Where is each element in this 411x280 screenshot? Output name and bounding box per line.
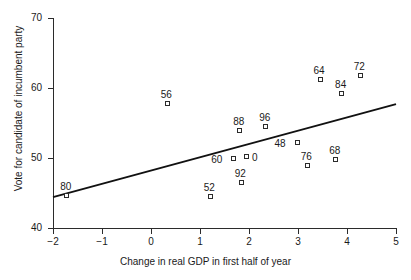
plot-area [53,18,396,228]
data-point-label: 72 [354,62,365,72]
data-point-label: 80 [60,182,71,192]
data-point-marker [244,154,249,159]
data-point-label: 64 [314,66,325,76]
data-point-marker [208,194,213,199]
x-axis-tick-label: 2 [237,237,261,247]
data-point-label: 0 [252,153,258,163]
data-point-marker [64,193,69,198]
data-point-marker [358,73,363,78]
x-axis-tick-label: 1 [188,237,212,247]
x-axis-label: Change in real GDP in first half of year [0,256,411,267]
x-axis-tick-label: −1 [90,237,114,247]
x-axis-tick-label: 3 [286,237,310,247]
data-point-marker [318,77,323,82]
x-axis-tick-label: 4 [335,237,359,247]
x-axis-tick [347,229,348,234]
data-point-label: 96 [259,113,270,123]
data-point-label: 52 [204,183,215,193]
data-point-label: 56 [161,90,172,100]
data-point-label: 84 [335,80,346,90]
y-axis-label: Vote for candidate of incumbent party [13,9,24,209]
data-point-marker [237,128,242,133]
data-point-marker [239,180,244,185]
x-axis-tick-label: −2 [41,237,65,247]
x-axis-tick [102,229,103,234]
x-axis-tick [53,229,54,234]
x-axis-tick [151,229,152,234]
data-point-label: 92 [235,169,246,179]
x-axis-line [53,228,397,229]
data-point-marker [263,124,268,129]
scatter-chart-figure: 40506070−2−1012345 Vote for candidate of… [0,0,411,280]
data-point-marker [305,163,310,168]
x-axis-tick-label: 5 [384,237,408,247]
data-point-label: 76 [301,152,312,162]
data-point-marker [339,91,344,96]
data-point-label: 88 [233,117,244,127]
x-axis-tick [200,229,201,234]
data-point-marker [295,140,300,145]
data-point-label: 48 [275,139,286,149]
x-axis-tick [298,229,299,234]
data-point-marker [165,101,170,106]
data-point-label: 68 [329,146,340,156]
x-axis-tick [249,229,250,234]
x-axis-tick [396,229,397,234]
y-axis-tick-label: 40 [16,223,42,233]
data-point-marker [231,156,236,161]
data-point-marker [333,157,338,162]
x-axis-tick-label: 0 [139,237,163,247]
data-point-label: 60 [211,155,222,165]
